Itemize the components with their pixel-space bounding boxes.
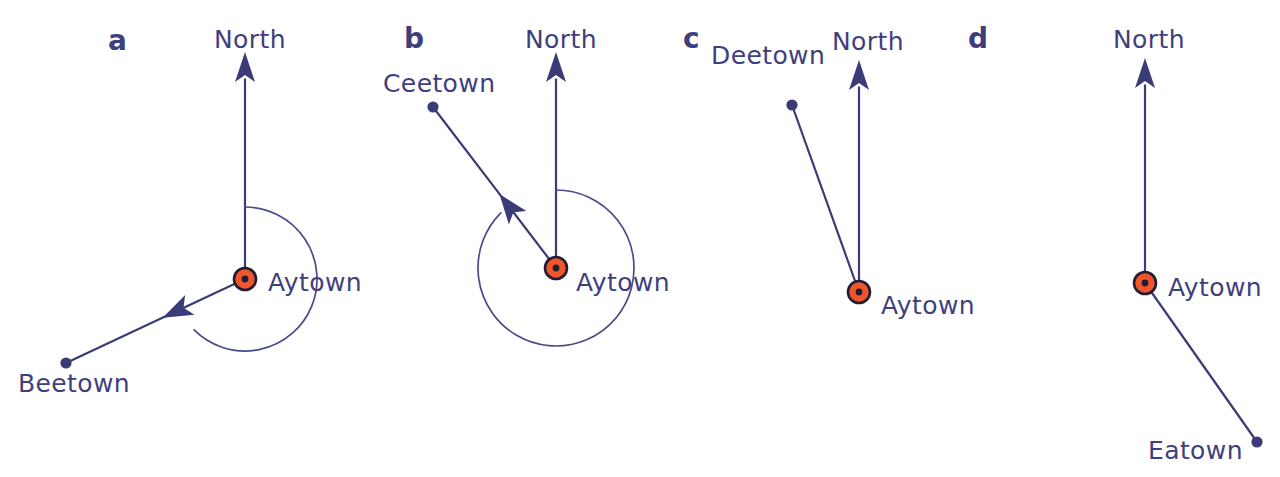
panels-root: aNorthAytownBeetownbNorthAytownCeetowncN…	[18, 22, 1263, 465]
panel-a: aNorthAytownBeetown	[18, 24, 362, 398]
north-label-b: North	[525, 25, 597, 54]
panel-b: bNorthAytownCeetown	[383, 22, 670, 346]
aytown-label-a: Aytown	[268, 268, 362, 297]
aytown-marker-core-a	[242, 276, 249, 283]
town-label-ceetown: Ceetown	[383, 69, 495, 98]
town-label-deetown: Deetown	[711, 41, 825, 70]
town-dot-beetown	[60, 357, 71, 368]
town-label-eatown: Eatown	[1148, 436, 1243, 465]
panel-letter-c: c	[683, 22, 700, 55]
line-to-deetown-c	[792, 105, 859, 292]
panel-letter-d: d	[968, 22, 988, 55]
bearings-figure: aNorthAytownBeetownbNorthAytownCeetowncN…	[0, 0, 1280, 477]
direction-arrowhead-a	[163, 295, 195, 318]
aytown-label-c: Aytown	[881, 291, 975, 320]
aytown-marker-core-c	[856, 289, 863, 296]
aytown-label-d: Aytown	[1168, 273, 1262, 302]
line-to-eatown-d	[1145, 283, 1257, 442]
north-label-a: North	[214, 25, 286, 54]
town-dot-ceetown	[427, 101, 438, 112]
town-label-beetown: Beetown	[18, 369, 130, 398]
aytown-marker-core-d	[1142, 280, 1149, 287]
north-label-c: North	[832, 27, 904, 56]
panel-letter-b: b	[404, 22, 424, 55]
town-dot-eatown	[1251, 436, 1262, 447]
panel-c: cNorthAytownDeetown	[683, 22, 975, 320]
north-arrowhead-c	[849, 60, 869, 90]
aytown-label-b: Aytown	[576, 268, 670, 297]
north-arrowhead-b	[546, 52, 566, 82]
panel-d: dNorthAytownEatown	[968, 22, 1263, 465]
line-to-beetown-a	[66, 279, 245, 363]
direction-arrowhead-b	[499, 194, 526, 225]
north-arrowhead-d	[1135, 58, 1155, 88]
town-dot-deetown	[786, 99, 797, 110]
north-arrowhead-a	[235, 52, 255, 82]
panel-letter-a: a	[108, 24, 127, 57]
aytown-marker-core-b	[553, 265, 560, 272]
bearings-canvas: aNorthAytownBeetownbNorthAytownCeetowncN…	[0, 0, 1280, 477]
line-to-ceetown-b	[433, 107, 556, 268]
north-label-d: North	[1113, 25, 1185, 54]
